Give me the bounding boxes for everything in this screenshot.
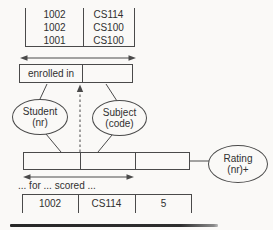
uniqueness-arrow-top [20, 55, 136, 61]
connector-student-bar [46, 134, 61, 152]
subject-code-cell: CS114 [78, 195, 135, 212]
uniqueness-arrow-bottom [23, 174, 134, 180]
table-row: 1002 CS114 5 [22, 195, 192, 212]
column-tick [191, 195, 192, 213]
column-tick [22, 195, 23, 213]
table-row: 1002 CS100 [26, 21, 134, 34]
table-row: 1002 CS114 [26, 8, 134, 21]
role-divider [135, 153, 136, 169]
predicate-label: enrolled in [20, 65, 82, 82]
connector-box-student [40, 84, 47, 99]
student-nr-cell: 1001 [26, 34, 83, 47]
subject-code-cell: CS114 [83, 8, 134, 21]
connector-box-subject [106, 84, 117, 101]
entity-ref-mode: (nr) [32, 117, 48, 128]
empty-role-cell [83, 65, 132, 82]
column-tick [135, 195, 136, 213]
student-nr-cell: 1002 [26, 21, 83, 34]
entity-subject: Subject (code) [92, 100, 147, 136]
entity-name: Student [23, 106, 57, 117]
enrollment-table: 1002 CS114 1002 CS100 1001 CS100 [25, 8, 135, 47]
column-tick [78, 195, 79, 213]
rating-cell: 5 [135, 195, 192, 212]
entity-ref-mode: (nr)+ [227, 164, 248, 175]
ternary-caption: ... for ... scored ... [18, 180, 96, 191]
entity-rating: Rating (nr)+ [208, 145, 268, 183]
predicate-box: enrolled in [19, 64, 133, 83]
connector-subject-bar [98, 135, 112, 152]
subject-code-cell: CS100 [83, 34, 134, 47]
page-rule [10, 224, 218, 227]
role-divider [80, 153, 81, 169]
student-nr-cell: 1002 [26, 8, 83, 21]
subject-code-cell: CS100 [83, 21, 134, 34]
entity-name: Subject [103, 107, 136, 118]
ternary-role-bar [23, 152, 190, 170]
dashed-join-arrow [77, 85, 83, 153]
result-row-table: 1002 CS114 5 [22, 194, 192, 212]
entity-student: Student (nr) [12, 99, 68, 135]
entity-ref-mode: (code) [105, 118, 133, 129]
student-nr-cell: 1002 [22, 195, 78, 212]
orm-schema-diagram: 1002 CS114 1002 CS100 1001 CS100 enrolle… [0, 0, 273, 230]
column-divider [83, 8, 84, 46]
entity-name: Rating [224, 153, 253, 164]
table-row: 1001 CS100 [26, 34, 134, 47]
